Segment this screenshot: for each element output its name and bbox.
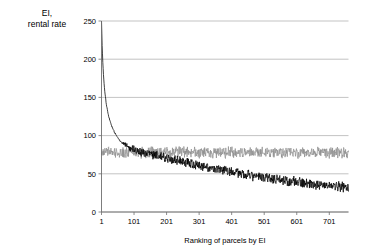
y-tick-label: 250 xyxy=(83,17,96,26)
axes-group xyxy=(99,21,349,215)
x-tick-label: 501 xyxy=(258,217,271,226)
x-tick-label: 601 xyxy=(290,217,303,226)
x-axis-title: Ranking of parcels by EI xyxy=(184,236,265,245)
x-tick-label: 701 xyxy=(323,217,336,226)
series-group xyxy=(102,21,349,192)
y-tick-label: 50 xyxy=(88,170,96,179)
chart-plot-area: 250200150100500 1101201301401501601701 R… xyxy=(0,0,373,251)
y-tick-label: 150 xyxy=(83,93,96,102)
x-tick-label: 101 xyxy=(128,217,141,226)
y-tick-label: 100 xyxy=(83,131,96,140)
y-tick-label: 0 xyxy=(92,208,96,217)
x-tick-labels: 1101201301401501601701 xyxy=(99,217,335,226)
x-tick-label: 401 xyxy=(225,217,238,226)
x-tick-label: 1 xyxy=(99,217,103,226)
chart-figure: EI, rental rate 250200150100500 11012013… xyxy=(0,0,373,251)
y-tick-label: 200 xyxy=(83,55,96,64)
x-tick-label: 201 xyxy=(160,217,173,226)
x-tick-label: 301 xyxy=(193,217,206,226)
y-tick-labels: 250200150100500 xyxy=(83,17,96,217)
